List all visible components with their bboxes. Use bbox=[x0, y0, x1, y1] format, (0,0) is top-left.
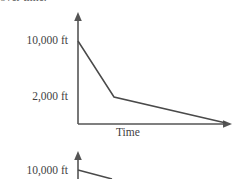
secondary-altitude-polyline bbox=[78, 170, 112, 179]
x-axis-arrowhead bbox=[223, 120, 232, 128]
secondary-chart-axes bbox=[74, 151, 112, 179]
figure-container: over time. 10,000 ft 2,000 ft Time 10,00… bbox=[0, 0, 238, 179]
secondary-y-axis-arrowhead bbox=[74, 151, 82, 160]
chart-vector-layer bbox=[0, 0, 238, 179]
primary-chart-axes bbox=[74, 12, 232, 128]
altitude-polyline bbox=[78, 41, 226, 123]
altitude-series-line bbox=[78, 41, 226, 123]
y-axis-arrowhead bbox=[74, 12, 82, 21]
